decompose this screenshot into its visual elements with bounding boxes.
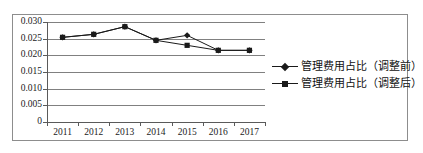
diamond-marker-icon: [272, 61, 298, 72]
data-point-square: [216, 48, 221, 53]
square-marker-icon: [272, 78, 298, 89]
legend-item-after[interactable]: 管理费用占比（调整后）: [272, 75, 422, 92]
x-axis-tick: [265, 122, 266, 126]
y-axis-tick-label: 0.030: [21, 17, 42, 26]
y-axis-tick-label: 0.015: [21, 67, 42, 76]
y-axis-tick-label: 0.005: [21, 100, 42, 109]
x-axis-tick: [234, 122, 235, 126]
y-axis-tick-label: 0.025: [21, 34, 42, 43]
data-point-square: [60, 35, 65, 40]
legend-label-after: 管理费用占比（调整后）: [301, 75, 422, 92]
x-axis-tick: [172, 122, 173, 126]
y-axis-tick-label: 0.010: [21, 84, 42, 93]
legend-item-before[interactable]: 管理费用占比（调整前）: [272, 58, 422, 75]
x-axis-tick-label: 2017: [229, 127, 269, 137]
y-axis-labels: 0.0300.0250.0200.0150.0100.0050: [0, 0, 42, 153]
legend-label-before: 管理费用占比（调整前）: [301, 58, 422, 75]
data-point-square: [122, 24, 127, 29]
data-point-square: [153, 38, 158, 43]
data-point-square: [185, 43, 190, 48]
plot-series: [47, 22, 265, 122]
x-axis-tick: [47, 122, 48, 126]
chart-figure: 0.0300.0250.0200.0150.0100.0050 20112012…: [0, 0, 423, 153]
y-axis-tick-label: 0: [37, 117, 42, 126]
data-point-square: [247, 48, 252, 53]
y-axis-tick-label: 0.020: [21, 50, 42, 59]
x-axis-tick: [109, 122, 110, 126]
chart-legend: 管理费用占比（调整前） 管理费用占比（调整后）: [272, 58, 422, 92]
x-axis-tick: [78, 122, 79, 126]
data-point-square: [91, 32, 96, 37]
data-point-diamond: [184, 32, 190, 38]
x-axis-tick: [203, 122, 204, 126]
x-axis-tick: [140, 122, 141, 126]
